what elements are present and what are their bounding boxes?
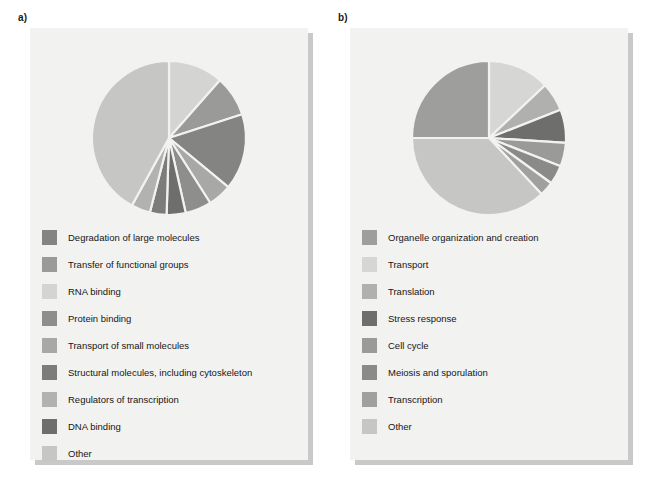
legend-swatch	[42, 257, 57, 272]
legend-swatch	[42, 311, 57, 326]
legend-row: Other	[362, 413, 628, 440]
legend-swatch	[42, 338, 57, 353]
panel-b-pie-svg	[350, 28, 628, 218]
legend-row: Cell cycle	[362, 332, 628, 359]
panel-b-card: Organelle organization and creationTrans…	[350, 28, 628, 460]
legend-label: Other	[68, 449, 92, 459]
legend-label: Transport	[388, 260, 428, 270]
legend-swatch	[362, 419, 377, 434]
legend-label: Transfer of functional groups	[68, 260, 189, 270]
legend-label: Meiosis and sporulation	[388, 368, 488, 378]
legend-swatch	[362, 257, 377, 272]
panel-a: a) Degradation of large moleculesTransfe…	[8, 0, 318, 491]
legend-row: Transport	[362, 251, 628, 278]
legend-label: Protein binding	[68, 314, 131, 324]
legend-label: Stress response	[388, 314, 457, 324]
legend-row: Protein binding	[42, 305, 308, 332]
panel-a-pie-svg	[30, 28, 308, 218]
legend-swatch	[362, 230, 377, 245]
legend-label: Structural molecules, including cytoskel…	[68, 368, 252, 378]
legend-row: Translation	[362, 278, 628, 305]
legend-label: Translation	[388, 287, 435, 297]
legend-label: Transport of small molecules	[68, 341, 189, 351]
panel-b-pie-chart	[350, 28, 628, 218]
legend-label: Transcription	[388, 395, 443, 405]
panel-b-label: b)	[338, 12, 348, 23]
legend-row: Meiosis and sporulation	[362, 359, 628, 386]
legend-row: DNA binding	[42, 413, 308, 440]
legend-row: Structural molecules, including cytoskel…	[42, 359, 308, 386]
legend-row: Transport of small molecules	[42, 332, 308, 359]
legend-label: Degradation of large molecules	[68, 233, 200, 243]
legend-swatch	[42, 392, 57, 407]
legend-swatch	[42, 365, 57, 380]
pie-slice	[412, 61, 489, 138]
legend-row: Other	[42, 440, 308, 467]
legend-label: Organelle organization and creation	[388, 233, 539, 243]
legend-swatch	[42, 446, 57, 461]
legend-label: Other	[388, 422, 412, 432]
legend-label: Cell cycle	[388, 341, 429, 351]
panel-a-pie-chart	[30, 28, 308, 218]
legend-label: Regulators of transcription	[68, 395, 179, 405]
figure-root: a) Degradation of large moleculesTransfe…	[0, 0, 645, 491]
legend-swatch	[42, 230, 57, 245]
legend-swatch	[362, 311, 377, 326]
legend-row: Transcription	[362, 386, 628, 413]
legend-label: DNA binding	[68, 422, 121, 432]
panel-a-card: Degradation of large moleculesTransfer o…	[30, 28, 308, 460]
legend-swatch	[42, 284, 57, 299]
legend-swatch	[362, 392, 377, 407]
legend-swatch	[362, 365, 377, 380]
legend-swatch	[362, 338, 377, 353]
legend-row: Regulators of transcription	[42, 386, 308, 413]
panel-a-label: a)	[18, 12, 27, 23]
panel-a-legend: Degradation of large moleculesTransfer o…	[42, 224, 308, 467]
legend-row: Transfer of functional groups	[42, 251, 308, 278]
legend-row: Organelle organization and creation	[362, 224, 628, 251]
legend-swatch	[362, 284, 377, 299]
legend-row: Degradation of large molecules	[42, 224, 308, 251]
panel-b: b) Organelle organization and creationTr…	[328, 0, 638, 491]
legend-swatch	[42, 419, 57, 434]
legend-row: Stress response	[362, 305, 628, 332]
legend-row: RNA binding	[42, 278, 308, 305]
panel-b-legend: Organelle organization and creationTrans…	[362, 224, 628, 440]
legend-label: RNA binding	[68, 287, 121, 297]
